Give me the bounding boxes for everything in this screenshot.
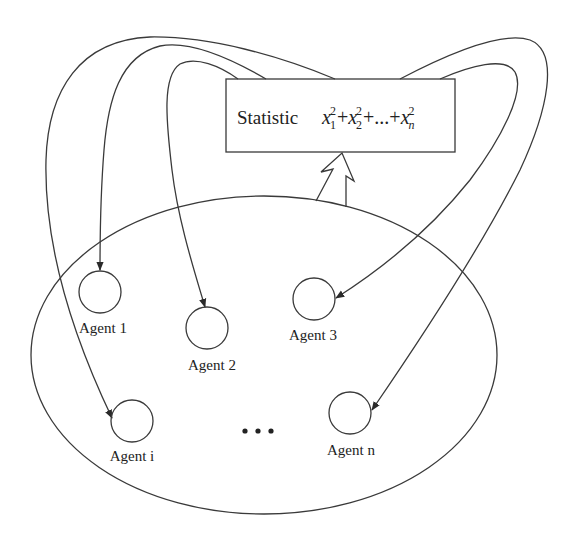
aggregate-arrow-icon xyxy=(316,153,354,207)
agent-3-node: Agent 3 xyxy=(289,278,337,343)
agent-1-label: Agent 1 xyxy=(79,320,127,336)
agent-n-label: Agent n xyxy=(327,442,375,458)
statistic-label: Statistic xyxy=(237,107,298,128)
ellipsis-dots-icon xyxy=(242,428,273,433)
agent-2-label: Agent 2 xyxy=(188,357,236,373)
agent-1-node: Agent 1 xyxy=(79,271,127,336)
agent-3-label: Agent 3 xyxy=(289,327,337,343)
edge-statistic-to-agent-3 xyxy=(336,64,518,298)
agent-statistic-diagram: Statistic x21+x22+...+x2n Agent 1 Agent … xyxy=(0,0,581,547)
statistic-box: Statistic x21+x22+...+x2n xyxy=(226,79,455,152)
edge-statistic-to-agent-2 xyxy=(167,61,238,307)
agent-n-node: Agent n xyxy=(327,392,375,458)
edge-statistic-to-agent-n xyxy=(372,38,548,410)
agent-i-node: Agent i xyxy=(110,400,155,464)
statistic-formula: x21+x22+...+x2n xyxy=(321,104,415,132)
agent-i-label: Agent i xyxy=(110,448,155,464)
agent-population-ellipse xyxy=(31,196,497,514)
agent-2-node: Agent 2 xyxy=(186,307,236,373)
